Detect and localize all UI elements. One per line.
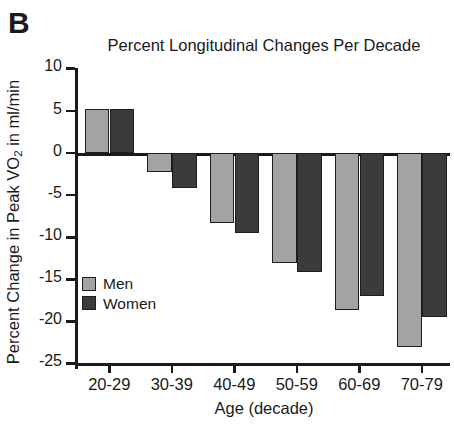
bar bbox=[85, 109, 110, 153]
y-axis-title: Percent Change in Peak VO2 in ml/min bbox=[0, 0, 26, 444]
legend-swatch-icon bbox=[82, 296, 96, 310]
x-tick-label: 20-29 bbox=[88, 376, 130, 393]
y-axis-title-before: Percent Change in Peak VO bbox=[4, 157, 22, 364]
x-tick bbox=[233, 363, 236, 373]
x-tick-label: 40-49 bbox=[213, 376, 255, 393]
bar bbox=[335, 153, 360, 310]
x-tick-label: 60-69 bbox=[338, 376, 380, 393]
y-tick: -5 bbox=[66, 194, 75, 197]
x-tick bbox=[421, 363, 424, 373]
x-tick bbox=[171, 363, 174, 373]
bar bbox=[272, 153, 297, 263]
legend-label: Men bbox=[103, 276, 133, 292]
y-tick-label: -10 bbox=[39, 227, 62, 243]
y-tick: -20 bbox=[66, 320, 75, 323]
x-tick bbox=[296, 363, 299, 373]
bar bbox=[110, 109, 135, 153]
y-tick-label: -25 bbox=[39, 354, 62, 370]
x-axis-line bbox=[75, 363, 450, 366]
bar bbox=[235, 153, 260, 233]
legend-swatch-icon bbox=[82, 277, 96, 291]
figure-panel-b: B Percent Longitudinal Changes Per Decad… bbox=[0, 0, 454, 444]
y-axis-title-subscript: 2 bbox=[12, 150, 24, 156]
zero-baseline bbox=[75, 153, 450, 156]
legend-label: Women bbox=[103, 296, 156, 312]
x-tick-label: 30-39 bbox=[151, 376, 193, 393]
chart-title: Percent Longitudinal Changes Per Decade bbox=[78, 36, 450, 54]
bar bbox=[422, 153, 447, 317]
y-tick-label: -5 bbox=[48, 185, 62, 201]
x-axis-title: Age (decade) bbox=[78, 399, 450, 418]
y-tick: 5 bbox=[66, 110, 75, 113]
y-axis-title-after: in ml/min bbox=[4, 80, 22, 151]
y-tick: 10 bbox=[66, 67, 75, 70]
y-tick: -10 bbox=[66, 236, 75, 239]
bar bbox=[147, 153, 172, 172]
x-tick bbox=[358, 363, 361, 373]
x-tick bbox=[108, 363, 111, 373]
x-tick-label: 70-79 bbox=[401, 376, 443, 393]
y-tick-label: 0 bbox=[53, 143, 62, 159]
legend: MenWomen bbox=[82, 276, 156, 315]
bar bbox=[297, 153, 322, 272]
plot-area: 1050-5-10-15-20-25 20-2930-3940-4950-596… bbox=[75, 64, 450, 369]
legend-item: Women bbox=[82, 296, 156, 312]
bar bbox=[360, 153, 385, 296]
bar bbox=[210, 153, 235, 223]
x-tick-label: 50-59 bbox=[276, 376, 318, 393]
y-axis-line bbox=[75, 68, 78, 369]
y-tick: -15 bbox=[66, 278, 75, 281]
legend-item: Men bbox=[82, 276, 156, 292]
y-tick-label: 10 bbox=[44, 59, 62, 75]
bar bbox=[172, 153, 197, 188]
y-tick: 0 bbox=[66, 152, 75, 155]
y-tick-label: -20 bbox=[39, 312, 62, 328]
y-tick-label: -15 bbox=[39, 270, 62, 286]
y-tick: -25 bbox=[66, 362, 75, 365]
y-tick-label: 5 bbox=[53, 101, 62, 117]
bar bbox=[397, 153, 422, 347]
